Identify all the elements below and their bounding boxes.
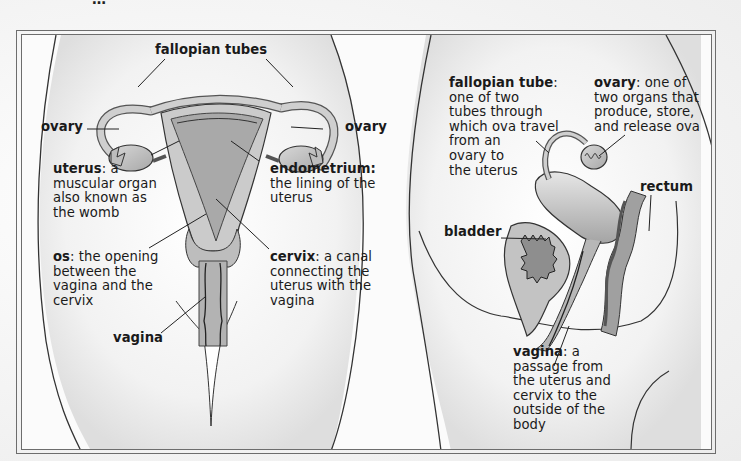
def-fallopian-tube: : one of two tubes through which ova tra… [449, 75, 559, 178]
label-endometrium: endometrium: the lining of the uterus [270, 162, 376, 206]
label-vagina-front: vagina [113, 331, 163, 346]
def-endometrium: the lining of the uterus [270, 176, 376, 206]
term-os: os [53, 249, 70, 264]
label-ovary-side: ovary: one of two organs that produce, s… [594, 76, 700, 134]
label-bladder: bladder [444, 225, 502, 240]
cutoff-caption: … [92, 0, 106, 7]
term-cervix: cervix [270, 249, 315, 264]
term-ovary: ovary [594, 75, 636, 90]
term-vagina: vagina [513, 344, 563, 359]
term-uterus: uterus [53, 161, 102, 176]
label-fallopian-tubes: fallopian tubes [155, 43, 267, 58]
label-vagina-side: vagina: a passage from the uterus and ce… [513, 345, 611, 433]
label-cervix: cervix: a canal connecting the uterus wi… [270, 250, 372, 308]
label-ovary-left: ovary [41, 120, 83, 135]
label-uterus: uterus: a muscular organ also known as t… [53, 162, 157, 220]
label-fallopian-tube: fallopian tube: one of two tubes through… [449, 76, 559, 178]
label-os: os: the opening between the vagina and t… [53, 250, 158, 308]
label-rectum: rectum [640, 180, 693, 195]
term-fallopian-tube: fallopian tube [449, 75, 553, 90]
term-endometrium: endometrium: [270, 161, 376, 176]
label-ovary-right: ovary [345, 120, 387, 135]
